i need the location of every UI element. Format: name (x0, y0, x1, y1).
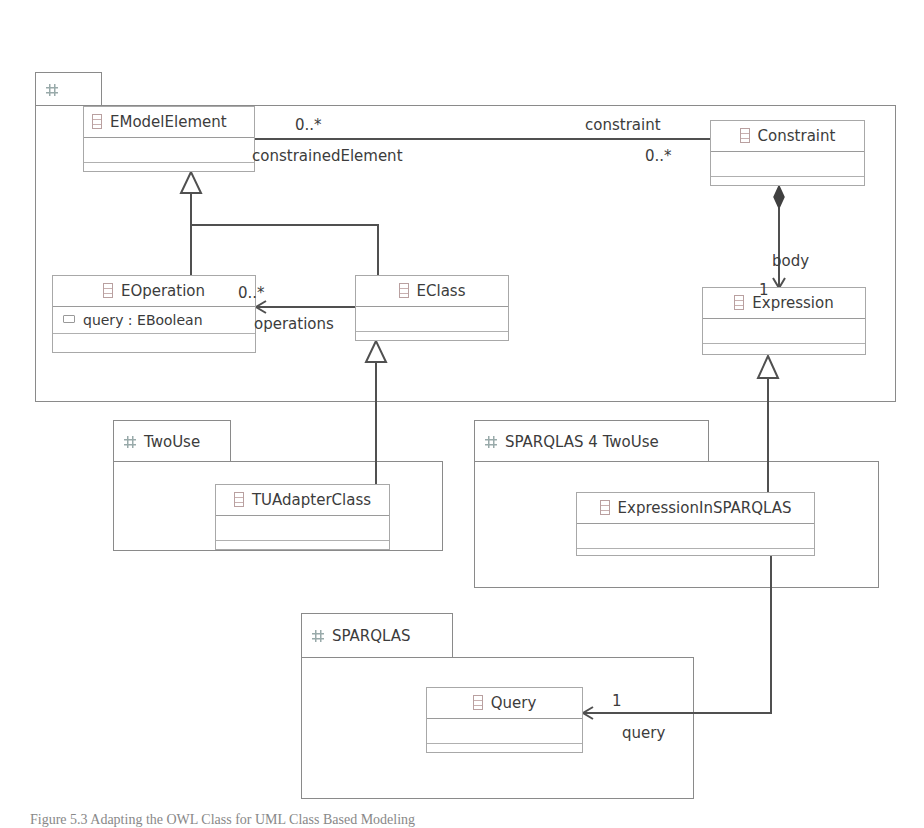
operations-compartment (356, 332, 508, 354)
operations-compartment (427, 744, 582, 766)
class-tuadapterclass[interactable]: TUAdapterClass (215, 484, 390, 550)
class-icon (600, 500, 610, 515)
query-multiplicity-label: 1 (612, 692, 622, 710)
source-multiplicity-label: 0..* (295, 116, 322, 134)
operations-compartment (53, 334, 255, 356)
class-emodelelement[interactable]: EModelElement (83, 106, 255, 172)
attributes-compartment (356, 307, 508, 332)
class-name: Query (491, 694, 537, 712)
class-icon (234, 492, 244, 507)
class-eclass[interactable]: EClass (355, 275, 509, 341)
target-role-label: constraint (585, 116, 661, 134)
attributes-compartment (216, 516, 389, 541)
class-icon (92, 114, 102, 129)
class-icon (734, 295, 744, 310)
class-expression[interactable]: Expression (702, 287, 866, 355)
operations-role-label: operations (254, 315, 334, 333)
attribute-label: query : EBoolean (83, 312, 203, 328)
attribute-icon (63, 315, 75, 323)
class-name: EOperation (121, 282, 205, 300)
query-role-label: query (622, 724, 665, 742)
class-icon (103, 283, 113, 298)
class-name: TUAdapterClass (252, 491, 371, 509)
body-multiplicity-label: 1 (759, 281, 769, 299)
attributes-compartment (703, 319, 865, 344)
attributes-compartment (427, 719, 582, 744)
class-icon (473, 695, 483, 710)
operations-compartment (711, 177, 864, 199)
class-name: ExpressionInSPARQLAS (618, 499, 792, 517)
attributes-compartment (84, 138, 254, 163)
attributes-compartment (711, 152, 864, 177)
target-multiplicity-label: 0..* (645, 147, 672, 165)
class-icon (740, 128, 750, 143)
class-constraint[interactable]: Constraint (710, 120, 865, 186)
operations-compartment (84, 163, 254, 185)
class-name: EClass (417, 282, 466, 300)
operations-multiplicity-label: 0..* (238, 284, 265, 302)
body-role-label: body (772, 252, 809, 270)
operations-compartment (577, 549, 814, 571)
operations-compartment (216, 541, 389, 563)
class-name: EModelElement (110, 113, 227, 131)
class-icon (399, 283, 409, 298)
class-expressioninsparqlas[interactable]: ExpressionInSPARQLAS (576, 492, 815, 556)
generalization-eclass-line (191, 225, 378, 275)
class-eoperation[interactable]: EOperation query : EBoolean (52, 275, 256, 353)
class-name: Constraint (758, 127, 836, 145)
source-role-label: constrainedElement (252, 147, 403, 165)
association-query-line (583, 556, 771, 713)
class-query[interactable]: Query (426, 687, 583, 753)
operations-compartment (703, 344, 865, 366)
attributes-compartment (577, 524, 814, 549)
attribute-row[interactable]: query : EBoolean (53, 307, 255, 334)
